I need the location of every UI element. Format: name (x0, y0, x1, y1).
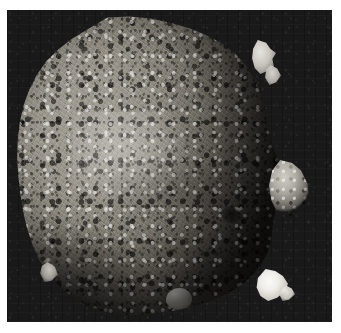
page-margin (0, 322, 341, 333)
regolith-bright-speckle (15, 16, 287, 318)
limb-darkening (15, 16, 287, 318)
regolith-micro-texture (15, 16, 287, 318)
asteroid-container (7, 10, 332, 322)
regolith-fine-dark-speckle (15, 16, 287, 318)
page-canvas (0, 0, 341, 333)
boulder-lower-right-fragment (279, 285, 295, 301)
bottom-limb-shadow (15, 16, 287, 318)
shadowed-boulder-centre (221, 206, 243, 224)
regolith-dark-boulder-speckle (15, 16, 287, 318)
terminator-shading (15, 16, 287, 318)
asteroid-photograph (7, 10, 332, 322)
boulder-upper-right-limb (250, 40, 276, 74)
equatorial-mottling-band (111, 164, 261, 218)
boulder-upper-right-limb-small (265, 65, 281, 85)
boulder-lower-right-bright (256, 269, 288, 301)
sunlit-highlight (73, 112, 185, 202)
asteroid-body (15, 16, 287, 318)
rounded-boulder-lower-centre (166, 288, 192, 310)
